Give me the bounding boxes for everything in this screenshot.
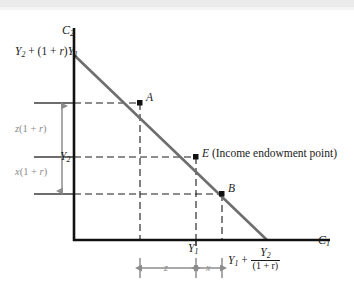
horizontal-intercept-denominator: (1 + r)	[251, 261, 281, 272]
measure-label-x-compound: x(1 + r)	[15, 167, 47, 178]
vertical-intercept-label: Y2 + (1 + r)Y1	[15, 46, 78, 59]
marker-point-e	[193, 154, 199, 160]
y-axis-label-base: C	[62, 23, 70, 37]
marker-point-b	[219, 191, 225, 197]
marker-point-a	[137, 100, 143, 106]
y-axis-label-sub: 2	[70, 29, 74, 38]
point-label-b: B	[228, 183, 235, 195]
measure-label-z-close: )	[43, 123, 47, 134]
point-label-e-short: E	[202, 147, 209, 159]
measure-label-z-rest: (1 +	[19, 123, 39, 134]
horizontal-intercept-numerator: Y2	[251, 246, 281, 261]
x-tick-sub: 1	[194, 247, 198, 256]
x-axis-label-sub: 1	[326, 239, 330, 248]
measure-label-z: z	[164, 263, 168, 273]
x-axis-label: C1	[318, 234, 330, 248]
vertical-intercept-y1-sub: 1	[74, 50, 78, 59]
point-label-a: A	[146, 92, 153, 104]
measure-label-x: x	[206, 263, 210, 273]
y-axis-tick-label-y2: Y2	[60, 151, 70, 164]
x-axis-label-base: C	[318, 233, 326, 247]
horizontal-intercept-plus: +	[238, 254, 250, 266]
point-label-e: E (Income endowment point)	[202, 148, 337, 160]
x-axis-tick-label-y1: Y1	[188, 243, 198, 256]
horizontal-intercept-fraction: Y2(1 + r)	[251, 246, 281, 272]
measure-label-z-compound: z(1 + r)	[15, 124, 47, 135]
measure-label-x-rest: (1 +	[20, 166, 40, 177]
figure-root: C2 C1 Y2 + (1 + r)Y1 Y1 + Y2(1 + r) Y2 Y…	[0, 0, 354, 290]
point-label-e-annotation: (Income endowment point)	[209, 147, 337, 159]
vertical-intercept-plus: + (1 +	[25, 45, 59, 57]
measure-label-x-close: )	[44, 166, 48, 177]
horizontal-intercept-num-sub: 2	[267, 251, 271, 260]
horizontal-intercept-label: Y1 + Y2(1 + r)	[228, 246, 280, 272]
y-axis-label: C2	[62, 24, 74, 38]
y-tick-sub: 2	[66, 155, 70, 164]
budget-constraint-diagram	[0, 0, 354, 290]
